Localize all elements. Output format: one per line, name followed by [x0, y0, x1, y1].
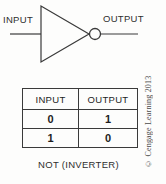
not-gate-figure: INPUT OUTPUT INPUT OUTPUT 0 1 1 0 NOT (I… [0, 0, 166, 184]
gate-input-label: INPUT [3, 14, 33, 25]
gate-output-label: OUTPUT [103, 13, 144, 24]
truth-table-cell-output-1: 0 [79, 129, 138, 148]
table-row: 0 1 [23, 110, 138, 129]
truth-table: INPUT OUTPUT 0 1 1 0 [22, 88, 138, 148]
truth-table-header-input: INPUT [23, 89, 79, 110]
figure-caption: NOT (INVERTER) [22, 159, 135, 170]
truth-table-header-row: INPUT OUTPUT [23, 89, 138, 110]
inversion-bubble [90, 29, 101, 40]
inverter-gate-diagram: INPUT OUTPUT [0, 0, 166, 80]
truth-table-cell-input-0: 0 [23, 110, 79, 129]
truth-table-header-output: OUTPUT [79, 89, 138, 110]
inverter-triangle [41, 6, 89, 62]
copyright-credit: © Cengage Learning 2013 [144, 64, 158, 180]
table-row: 1 0 [23, 129, 138, 148]
truth-table-cell-output-0: 1 [79, 110, 138, 129]
truth-table-cell-input-1: 1 [23, 129, 79, 148]
